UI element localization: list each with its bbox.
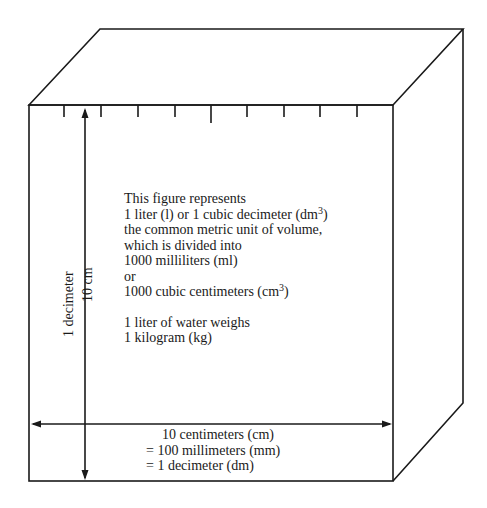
vertical-label-cm: 10 cm: [80, 267, 96, 302]
horizontal-label-dm: = 1 decimeter (dm): [146, 458, 280, 474]
horizontal-label-mm: = 100 millimeters (mm): [146, 443, 280, 459]
description-line: or: [124, 269, 328, 285]
cube-right-face: [393, 29, 463, 481]
horizontal-label-cm: 10 centimeters (cm): [146, 427, 280, 443]
description-line: 1000 milliliters (ml): [124, 253, 328, 269]
horizontal-dimension-labels: 10 centimeters (cm) = 100 millimeters (m…: [146, 427, 280, 474]
vertical-label-decimeter: 1 decimeter: [61, 271, 77, 337]
centimeter-ticks: [64, 105, 357, 123]
arrowhead-right-icon: [382, 421, 392, 428]
description-line: 1 liter (l) or 1 cubic decimeter (dm3): [124, 207, 328, 223]
description-line: 1000 cubic centimeters (cm3): [124, 284, 328, 300]
description-line: which is divided into: [124, 238, 328, 254]
arrowhead-up-icon: [82, 108, 89, 118]
arrowhead-left-icon: [31, 421, 41, 428]
description-line: This figure represents: [124, 191, 328, 207]
cube-top-face: [29, 29, 463, 105]
weight-line: 1 kilogram (kg): [124, 330, 328, 346]
spacer: [124, 300, 328, 315]
description-line: the common metric unit of volume,: [124, 222, 328, 238]
weight-line: 1 liter of water weighs: [124, 315, 328, 331]
arrowhead-down-icon: [82, 470, 89, 480]
volume-description: This figure represents 1 liter (l) or 1 …: [124, 191, 328, 346]
